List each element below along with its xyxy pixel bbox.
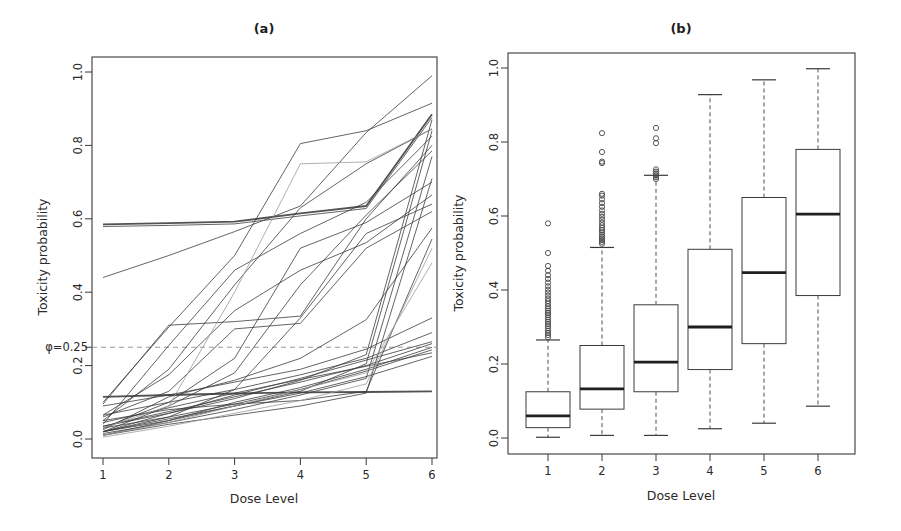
x-tick-label: 3 bbox=[652, 464, 659, 478]
x-tick-label: 6 bbox=[814, 464, 821, 478]
iqr-box bbox=[580, 346, 624, 410]
x-tick-label: 3 bbox=[231, 468, 238, 482]
outlier-point bbox=[599, 131, 604, 136]
panel-b-xlabel: Dose Level bbox=[647, 488, 715, 503]
outlier-point bbox=[599, 149, 604, 154]
panel-b-title: (b) bbox=[670, 21, 691, 36]
y-tick-label: 0.8 bbox=[71, 136, 85, 154]
toxicity-curve-curve-03 bbox=[103, 76, 432, 278]
x-tick-label: 1 bbox=[544, 464, 551, 478]
panel-a-line-plot: 0.00.20.40.60.81.0123456 bbox=[71, 57, 437, 482]
panel-a-xlabel: Dose Level bbox=[230, 491, 298, 506]
x-tick-label: 5 bbox=[760, 464, 767, 478]
x-tick-label: 4 bbox=[297, 468, 304, 482]
y-tick-label: 0.6 bbox=[71, 210, 85, 228]
y-tick-label: 1.0 bbox=[487, 59, 501, 77]
y-tick-label: 0.2 bbox=[487, 355, 501, 373]
toxicity-curve-curve-17 bbox=[103, 120, 432, 427]
y-tick-label: 0.4 bbox=[487, 281, 501, 299]
x-tick-label: 1 bbox=[99, 468, 106, 482]
panel-b-boxplot: 0.00.20.40.60.81.0123456 bbox=[487, 53, 855, 478]
outlier-point bbox=[545, 250, 550, 255]
y-tick-label: 1.0 bbox=[71, 63, 85, 81]
iqr-box bbox=[634, 305, 678, 392]
y-tick-label: 0.0 bbox=[71, 430, 85, 448]
x-tick-label: 4 bbox=[706, 464, 713, 478]
y-tick-label: 0.4 bbox=[71, 283, 85, 301]
x-tick-label: 2 bbox=[165, 468, 172, 482]
y-tick-label: 0.6 bbox=[487, 207, 501, 225]
phi-reference-label: φ=0.25 bbox=[45, 340, 88, 354]
figure-canvas: (a) (b) Dose Level Dose Level Toxicity p… bbox=[0, 0, 901, 531]
panel-b-ylabel: Toxicity probability bbox=[451, 194, 466, 313]
toxicity-curve-curve-29 bbox=[103, 129, 432, 428]
outlier-point bbox=[545, 221, 550, 226]
toxicity-curve-curve-01 bbox=[103, 114, 432, 224]
toxicity-curve-curve-04 bbox=[103, 103, 432, 402]
iqr-box bbox=[688, 249, 732, 369]
x-tick-label: 6 bbox=[428, 468, 435, 482]
panel-a-ylabel: Toxicity probability bbox=[35, 198, 50, 317]
y-tick-label: 0.2 bbox=[71, 356, 85, 374]
iqr-box bbox=[526, 392, 570, 428]
x-tick-label: 2 bbox=[598, 464, 605, 478]
two-panel-toxicity-figure: (a) (b) Dose Level Dose Level Toxicity p… bbox=[0, 0, 901, 531]
y-tick-label: 0.8 bbox=[487, 133, 501, 151]
toxicity-curve-curve-26 bbox=[103, 391, 432, 397]
toxicity-curve-curve-05 bbox=[103, 129, 432, 421]
toxicity-curve-curve-06 bbox=[103, 136, 432, 424]
toxicity-curve-curve-02 bbox=[103, 118, 432, 227]
y-tick-label: 0.0 bbox=[487, 429, 501, 447]
x-tick-label: 5 bbox=[363, 468, 370, 482]
iqr-box bbox=[796, 149, 840, 295]
outlier-point bbox=[653, 125, 658, 130]
panel-a-title: (a) bbox=[254, 21, 275, 36]
iqr-box bbox=[742, 198, 786, 344]
